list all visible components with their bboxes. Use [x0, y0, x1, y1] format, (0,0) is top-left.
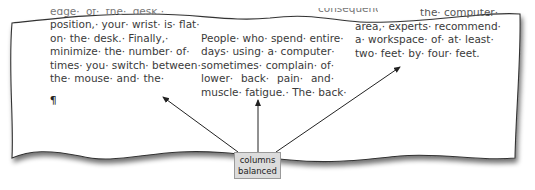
- figure-stage: edge· of· the· desk.· position,· your· w…: [0, 0, 535, 190]
- arrow-to-column-1: [163, 97, 238, 152]
- callout-line-2: balanced: [235, 166, 280, 177]
- columns-balanced-callout: columns balanced: [234, 152, 281, 179]
- arrow-to-column-3: [276, 67, 400, 152]
- callout-line-1: columns: [235, 155, 280, 166]
